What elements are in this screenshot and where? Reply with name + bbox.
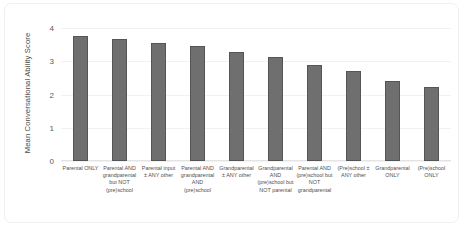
plot-area: 4 3 2 1 0 xyxy=(61,28,451,161)
y-axis-title: Mean Conversational Ability Score xyxy=(23,18,33,168)
bar[interactable] xyxy=(307,65,322,161)
bar[interactable] xyxy=(112,39,127,161)
bar[interactable] xyxy=(229,52,244,161)
x-axis-tick-label: Parental ONLY xyxy=(61,165,100,221)
bar[interactable] xyxy=(73,36,88,161)
bar[interactable] xyxy=(346,71,361,161)
bar-slot xyxy=(61,28,100,161)
y-tick-label-2: 2 xyxy=(50,90,54,99)
bar[interactable] xyxy=(424,87,439,161)
y-tick-label-1: 1 xyxy=(50,123,54,132)
y-tick-label-3: 3 xyxy=(50,57,54,66)
bar-slot xyxy=(139,28,178,161)
bar-slot xyxy=(256,28,295,161)
bar[interactable] xyxy=(268,57,283,161)
bar[interactable] xyxy=(151,43,166,161)
bar[interactable] xyxy=(190,46,205,161)
bar-slot xyxy=(100,28,139,161)
bar-slot xyxy=(334,28,373,161)
x-axis-tick-label: (Pre)school ± ANY other xyxy=(334,165,373,221)
x-axis-labels: Parental ONLYParental AND grandparental … xyxy=(61,165,451,221)
x-axis-tick-label: Parental input ± ANY other xyxy=(139,165,178,221)
y-tick-label-0: 0 xyxy=(50,157,54,166)
bar-slot xyxy=(217,28,256,161)
chart-figure: Mean Conversational Ability Score 4 3 2 … xyxy=(4,3,459,223)
bar-slot xyxy=(373,28,412,161)
x-axis-tick-label: Grandparental AND (pre)school but NOT pa… xyxy=(256,165,295,221)
y-tick-label-4: 4 xyxy=(50,24,54,33)
x-axis-tick-label: Grandparental ± ANY other xyxy=(217,165,256,221)
x-axis-tick-label: Parental AND grandparental AND (pre)scho… xyxy=(178,165,217,221)
gridline-0: 0 xyxy=(61,161,451,162)
bar[interactable] xyxy=(385,81,400,161)
y-axis-title-container: Mean Conversational Ability Score xyxy=(15,18,41,168)
x-axis-tick-label: (Pre)school ONLY xyxy=(412,165,451,221)
x-axis-tick-label: Grandparental ONLY xyxy=(373,165,412,221)
bar-series xyxy=(61,28,451,161)
bar-slot xyxy=(178,28,217,161)
bar-slot xyxy=(295,28,334,161)
bar-slot xyxy=(412,28,451,161)
x-axis-tick-label: Parental AND grandparental but NOT (pre)… xyxy=(100,165,139,221)
x-axis-tick-label: Parental AND (pre)school but NOT grandpa… xyxy=(295,165,334,221)
